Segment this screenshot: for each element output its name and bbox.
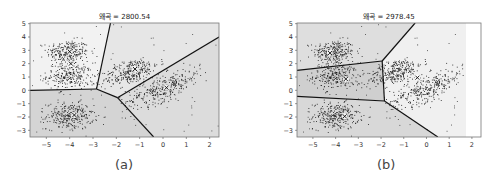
x-tick-label: 1 [447,141,451,149]
x-tick-label: −1 [135,141,145,149]
x-tick-label: 0 [161,141,165,149]
x-tick-label: −2 [376,141,386,149]
x-tick-label: 0 [424,141,428,149]
x-tick-label: 1 [184,141,188,149]
y-tick-label: 2 [289,60,293,68]
y-tick-label: −3 [283,127,293,135]
y-tick-label: −3 [16,127,26,135]
x-tick-label: −3 [88,141,98,149]
caption-a: (a) [115,157,133,172]
y-tick-label: 3 [22,47,26,55]
x-tick-label: −4 [331,141,341,149]
x-tick-label: −5 [308,141,318,149]
x-tick-label: −1 [399,141,409,149]
chart-panel-b: −5−4−3−2−1012−3−2−1012345왜곡 = 2978.45 [247,0,495,188]
y-tick-label: 2 [22,60,26,68]
x-tick-label: −2 [112,141,122,149]
y-tick-label: −2 [283,113,293,121]
y-tick-label: 5 [22,20,26,28]
x-tick-label: 2 [470,141,474,149]
y-tick-label: 1 [289,73,293,81]
y-tick-label: −2 [16,113,26,121]
x-tick-label: −4 [65,141,75,149]
scatter-plot-b: −5−4−3−2−1012−3−2−1012345왜곡 = 2978.45 [247,0,495,150]
x-tick-label: −5 [42,141,52,149]
y-tick-label: 0 [289,87,293,95]
chart-title: 왜곡 = 2978.45 [363,12,414,21]
y-tick-label: −1 [283,100,293,108]
x-tick-label: −3 [354,141,364,149]
y-tick-label: 3 [289,47,293,55]
y-tick-label: −1 [16,100,26,108]
y-tick-label: 1 [22,73,26,81]
chart-title: 왜곡 = 2800.54 [99,12,151,21]
caption-b: (b) [377,157,395,172]
y-tick-label: 5 [289,20,293,28]
scatter-plot-a: −5−4−3−2−1012−3−2−1012345왜곡 = 2800.54 [0,0,247,150]
y-tick-label: 4 [22,33,26,41]
y-tick-label: 4 [289,33,293,41]
x-tick-label: 2 [208,141,212,149]
y-tick-label: 0 [22,87,26,95]
